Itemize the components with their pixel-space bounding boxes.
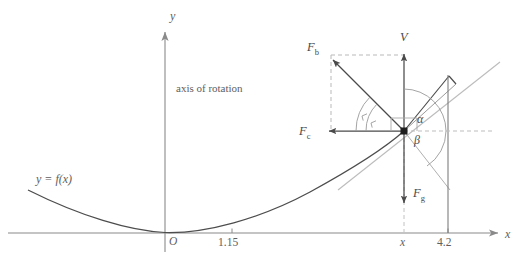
vector-label-F-b: Fb: [307, 40, 319, 57]
diagram-svg: [0, 0, 526, 267]
origin-label: O: [169, 235, 177, 247]
angle-label-alpha: α: [417, 112, 423, 127]
angle-label-beta: β: [414, 133, 420, 148]
vector-label-F-c-sub: c: [307, 131, 311, 141]
vector-F-b: [333, 60, 404, 131]
x-tick-label-2: 4.2: [437, 236, 451, 248]
x-tick-label-1: 1.15: [218, 236, 238, 248]
angle-arc-beta: [427, 131, 446, 166]
vector-label-F-g-base: F: [413, 186, 421, 200]
x-axis-label: x: [505, 227, 510, 242]
vector-label-F-b-base: F: [307, 40, 315, 54]
vector-label-F-c-base: F: [299, 124, 307, 138]
y-axis-label: y: [170, 9, 175, 24]
point-marker: [401, 128, 408, 135]
x-axis: [8, 229, 498, 234]
angle-arcs-left: [356, 97, 377, 131]
point-x-label: x: [400, 236, 405, 248]
curve-label: y = f(x): [36, 172, 72, 187]
figure-canvas: y x O 1.15 4.2 x axis of rotation y = f(…: [0, 0, 526, 267]
vector-label-F-g: Fg: [413, 186, 425, 203]
vector-label-F-b-sub: b: [315, 47, 319, 57]
vector-label-F-g-sub: g: [421, 193, 425, 203]
vector-label-V: V: [400, 30, 408, 45]
axis-of-rotation-label: axis of rotation: [176, 82, 243, 94]
vector-label-F-c: Fc: [299, 124, 310, 141]
